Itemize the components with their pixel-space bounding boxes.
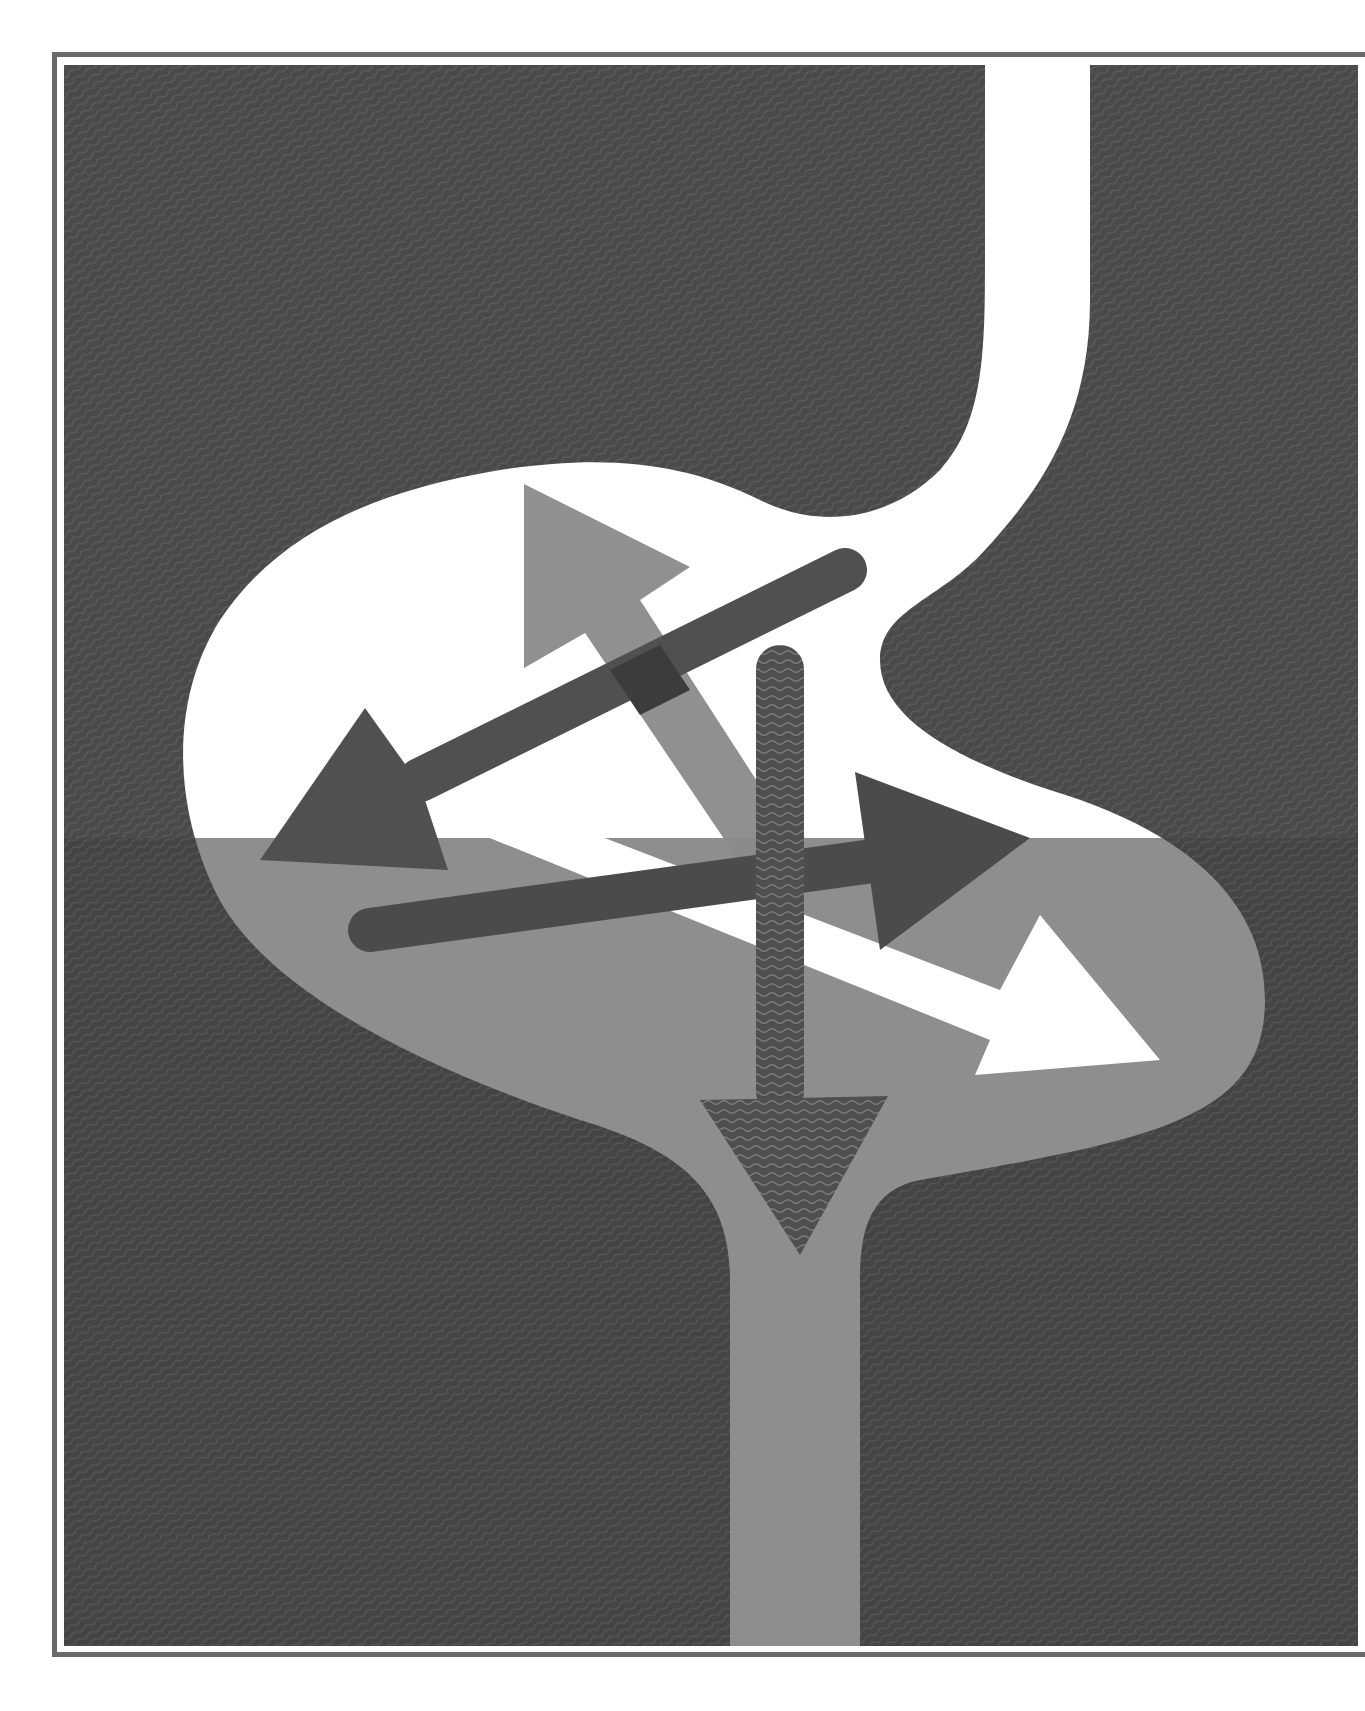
- artwork-canvas: [64, 65, 1358, 1646]
